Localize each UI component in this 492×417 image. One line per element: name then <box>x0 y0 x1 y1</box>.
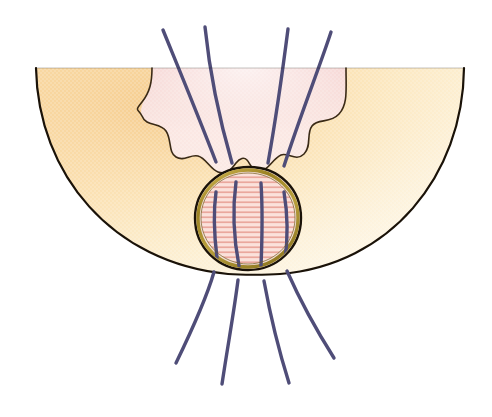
ganglion-body <box>195 167 301 270</box>
anatomy-illustration <box>0 0 492 417</box>
lower-fiber-2 <box>222 280 238 384</box>
lower-nerve-fibers <box>176 271 334 384</box>
lower-fiber-4 <box>287 271 334 358</box>
lower-fiber-3 <box>264 281 289 383</box>
anatomy-figure: Anatomical cross-section diagram Hemisph… <box>0 0 492 417</box>
lower-fiber-1 <box>176 272 214 363</box>
ganglion-fiber-3 <box>261 183 262 266</box>
